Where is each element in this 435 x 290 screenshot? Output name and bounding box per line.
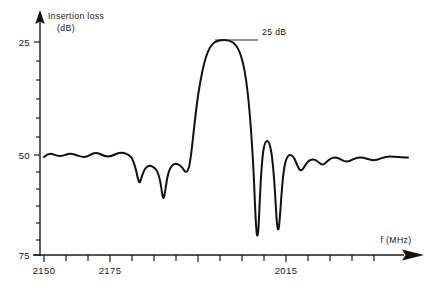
y-tick-label-75: 75 [19,250,30,261]
x-tick-label-1: 2150 [33,265,56,276]
insertion-loss-trace [44,40,408,236]
y-tick-label-50: 50 [19,150,30,161]
annotation-label-25db: 25 dB [262,27,286,37]
y-axis-title-line1: Insertion loss [48,11,104,21]
y-axis-title-line2: (dB) [57,23,75,33]
x-axis-arrowhead [402,250,424,261]
x-tick-label-3: 2015 [275,265,298,276]
y-tick-label-25: 25 [19,37,30,48]
x-axis-title: f (MHz) [381,235,412,245]
x-tick-label-2: 2175 [99,265,122,276]
insertion-loss-chart: Insertion loss (dB) 25 50 75 [0,0,435,290]
